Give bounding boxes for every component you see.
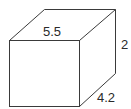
top-face-edges [10, 10, 116, 41]
length-label: 5.5 [43, 24, 61, 39]
height-label: 2 [121, 37, 128, 52]
front-face [10, 41, 80, 107]
depth-label: 4.2 [97, 90, 115, 105]
prism-diagram: 5.5 2 4.2 [0, 0, 131, 109]
